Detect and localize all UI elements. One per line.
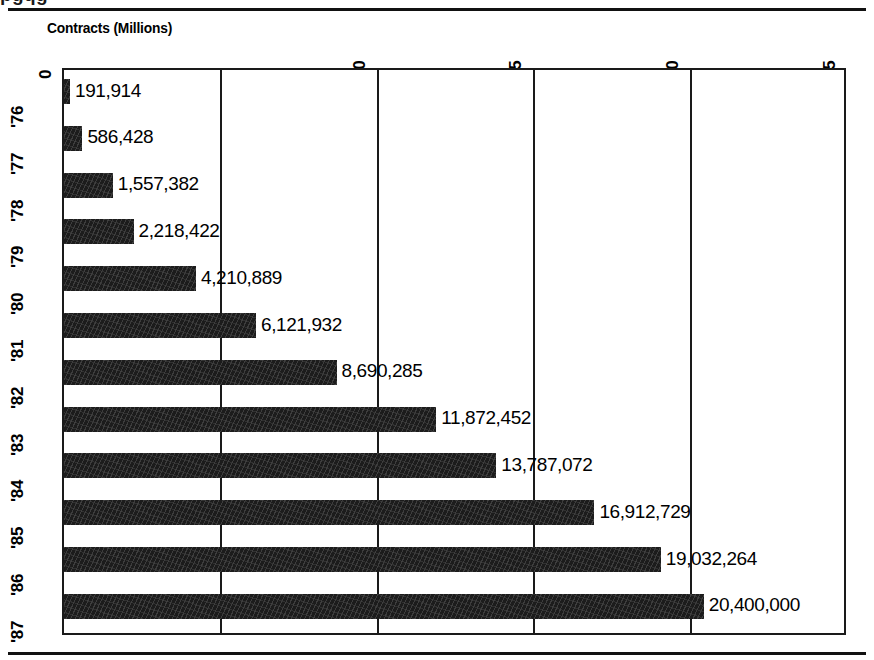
y-category-label-85: '85	[9, 527, 26, 549]
x-tick-label-0: 0	[37, 70, 54, 79]
y-category-label-80: '80	[9, 293, 26, 315]
bar-texture	[64, 360, 337, 385]
bottom-rule	[8, 652, 866, 655]
bar	[64, 266, 196, 291]
top-rule	[8, 8, 866, 11]
bar-value-label: 586,428	[87, 127, 153, 146]
bar-texture	[64, 173, 113, 198]
bar-texture	[64, 126, 82, 151]
bar	[64, 547, 661, 572]
bar-value-label: 16,912,729	[599, 502, 690, 521]
y-category-label-83: '83	[9, 434, 26, 456]
bar	[64, 407, 436, 432]
y-category-label-84: '84	[9, 480, 26, 502]
bar	[64, 79, 70, 104]
bar-value-label: 2,218,422	[139, 221, 220, 240]
bar-value-label: 20,400,000	[709, 595, 800, 614]
bar-texture	[64, 547, 661, 572]
figure-root: pgqg Contracts (Millions) 0510152025 '76…	[0, 0, 874, 660]
bar	[64, 219, 134, 244]
bar-value-label: 191,914	[75, 81, 141, 100]
bar-texture	[64, 500, 594, 525]
bar-texture	[64, 313, 256, 338]
bar-value-label: 6,121,932	[261, 315, 342, 334]
y-category-label-87: '87	[9, 621, 26, 643]
bar	[64, 594, 704, 619]
bar-texture	[64, 594, 704, 619]
bar-value-label: 4,210,889	[201, 268, 282, 287]
bar-value-label: 8,690,285	[342, 361, 423, 380]
bar-texture	[64, 79, 70, 104]
y-category-label-82: '82	[9, 387, 26, 409]
cropped-headline-fragment: pgqg	[0, 0, 874, 7]
bar	[64, 500, 594, 525]
y-category-label-79: '79	[9, 246, 26, 268]
y-category-label-77: '77	[9, 153, 26, 175]
bar	[64, 453, 496, 478]
y-category-label-86: '86	[9, 574, 26, 596]
bar	[64, 173, 113, 198]
bar-value-label: 19,032,264	[666, 549, 757, 568]
bar-texture	[64, 219, 134, 244]
bar-texture	[64, 266, 196, 291]
axis-title: Contracts (Millions)	[47, 19, 172, 36]
y-category-label-81: '81	[9, 340, 26, 362]
bar-value-label: 13,787,072	[501, 455, 592, 474]
bar-texture	[64, 453, 496, 478]
bar-value-label: 11,872,452	[441, 408, 531, 427]
bar	[64, 360, 337, 385]
bar	[64, 126, 82, 151]
bar-value-label: 1,557,382	[118, 174, 199, 193]
cropped-headline-text: pgqg	[0, 0, 48, 6]
bar-texture	[64, 407, 436, 432]
y-category-label-76: '76	[9, 106, 26, 128]
bar	[64, 313, 256, 338]
y-category-label-78: '78	[9, 200, 26, 222]
